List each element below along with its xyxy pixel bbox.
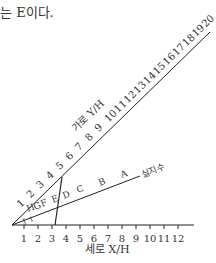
yh-axis-tick-labels: 1234567891011121314151617181920 bbox=[14, 12, 216, 209]
yh-tick-label: 2 bbox=[24, 188, 36, 200]
yh-tick-label: 5 bbox=[53, 159, 65, 171]
nomogram: 123456789101112 세로 X/H 12345678910111213… bbox=[0, 0, 216, 263]
index-letter: C bbox=[75, 183, 85, 195]
yh-tick-label: 7 bbox=[73, 140, 85, 152]
x-tick-label: 5 bbox=[77, 233, 83, 244]
yh-axis-line bbox=[12, 32, 210, 225]
x-tick-label: 10 bbox=[144, 233, 157, 244]
x-tick-label: 9 bbox=[133, 233, 139, 244]
x-tick-label: 11 bbox=[158, 233, 171, 244]
yh-tick-label: 9 bbox=[92, 121, 104, 133]
index-line-letters: JIHGFEDCBA bbox=[21, 168, 129, 226]
index-letter: D bbox=[61, 189, 71, 201]
yh-tick-label: 3 bbox=[34, 178, 46, 190]
x-tick-label: 12 bbox=[172, 233, 185, 244]
x-tick-label: 1 bbox=[21, 233, 27, 244]
yh-tick-label: 1 bbox=[14, 197, 26, 209]
index-letter: A bbox=[118, 168, 129, 180]
x-axis-ticks bbox=[24, 225, 178, 229]
x-tick-label: 4 bbox=[63, 233, 69, 244]
x-axis-label: 세로 X/H bbox=[85, 243, 130, 256]
x-tick-label: 3 bbox=[49, 233, 55, 244]
yh-tick-label: 6 bbox=[63, 150, 75, 162]
yh-tick-label: 4 bbox=[44, 169, 56, 181]
yh-tick-label: 8 bbox=[83, 131, 95, 143]
index-letter: B bbox=[97, 176, 107, 188]
x-tick-label: 2 bbox=[35, 233, 41, 244]
index-line-label: 실지수 bbox=[140, 162, 166, 180]
